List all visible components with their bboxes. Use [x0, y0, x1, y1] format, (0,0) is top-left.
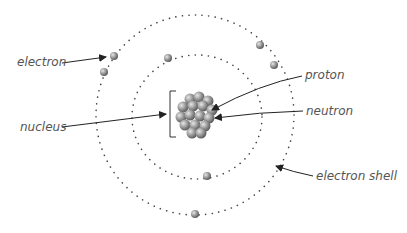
neutron-label: neutron — [306, 104, 353, 118]
electron-shell-arrow — [276, 166, 313, 176]
electron-arrow — [62, 57, 106, 63]
neutron-arrow — [215, 111, 303, 118]
electron-particle — [270, 61, 278, 69]
electron-particle — [164, 54, 172, 62]
nucleus-arrow — [62, 114, 166, 127]
proton-label: proton — [305, 68, 345, 82]
atom-diagram: electron nucleus proton neutron electron… — [0, 0, 407, 233]
electron-label: electron — [17, 55, 66, 69]
electron-particle — [110, 52, 118, 60]
electron-shell-label: electron shell — [316, 169, 397, 183]
electron-particle — [100, 68, 108, 76]
nucleus — [176, 92, 218, 139]
electron-particle — [203, 172, 211, 180]
nucleus-label: nucleus — [20, 120, 66, 134]
electron-particle — [191, 210, 199, 218]
electron-particle — [256, 41, 264, 49]
nucleus-bracket — [170, 91, 176, 137]
proton-arrow — [212, 76, 302, 110]
